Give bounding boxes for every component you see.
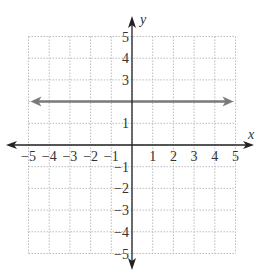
- axes: [6, 16, 254, 270]
- y-tick-label: 4: [122, 51, 129, 66]
- x-tick-label: 4: [211, 149, 218, 164]
- x-tick-label: −3: [62, 149, 77, 164]
- coordinate-plane: −5−4−3−2−1123455431−1−2−3−4−5 x y: [0, 0, 262, 273]
- x-tick-label: −5: [21, 149, 36, 164]
- y-tick-label: −2: [114, 181, 129, 196]
- y-tick-label: −4: [114, 225, 129, 240]
- y-tick-label: 3: [122, 73, 129, 88]
- x-tick-label: 1: [149, 149, 156, 164]
- y-tick-label: 1: [122, 116, 129, 131]
- x-axis-label: x: [247, 127, 255, 142]
- x-tick-label: 5: [232, 149, 239, 164]
- y-axis-label: y: [138, 12, 147, 27]
- y-tick-label: −5: [114, 247, 129, 262]
- x-tick-label: 3: [191, 149, 198, 164]
- x-tick-label: 2: [170, 149, 177, 164]
- y-tick-label: 5: [122, 30, 129, 45]
- x-tick-label: −2: [83, 149, 98, 164]
- y-tick-label: −1: [114, 160, 129, 175]
- y-tick-label: −3: [114, 203, 129, 218]
- x-tick-label: −4: [42, 149, 57, 164]
